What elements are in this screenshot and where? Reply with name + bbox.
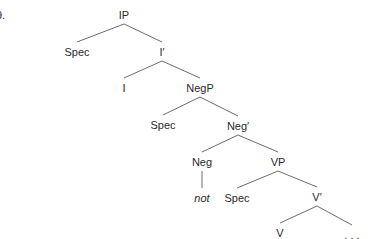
edge-vp-vbar (278, 171, 317, 187)
edge-vbar-v (280, 206, 317, 223)
tree-node-i: I (122, 82, 125, 94)
tree-node-ellipsis: . . . (344, 229, 359, 239)
edge-ibar-negp (162, 61, 200, 78)
tree-node-spec2: Spec (150, 119, 175, 131)
tree-node-neg: Neg (192, 156, 212, 168)
edge-negbar-neg (202, 135, 238, 152)
edge-negp-negbar (200, 97, 238, 116)
edge-ibar-i (124, 61, 162, 78)
tree-node-ibar: I′ (159, 46, 164, 58)
tree-node-negbar: Neg′ (227, 120, 249, 132)
edge-negp-spec2 (163, 97, 200, 115)
edge-ip-ibar (124, 24, 162, 42)
tree-node-negp: NegP (186, 82, 214, 94)
tree-node-spec3: Spec (224, 192, 249, 204)
edge-vbar-ellipsis (317, 206, 352, 225)
tree-node-vp: VP (271, 156, 286, 168)
edge-vp-spec3 (237, 171, 278, 188)
tree-node-v: V (276, 227, 283, 239)
edge-ip-spec1 (77, 24, 124, 42)
tree-node-spec1: Spec (64, 46, 89, 58)
tree-node-not: not (194, 192, 209, 204)
tree-node-vbar: V′ (312, 191, 321, 203)
tree-node-ip: IP (119, 9, 129, 21)
edge-negbar-vp (238, 135, 278, 152)
syntax-tree: IPSpecI′INegPSpecNeg′NegVPnotSpecV′V. . … (0, 0, 381, 239)
tree-edges (0, 0, 381, 239)
